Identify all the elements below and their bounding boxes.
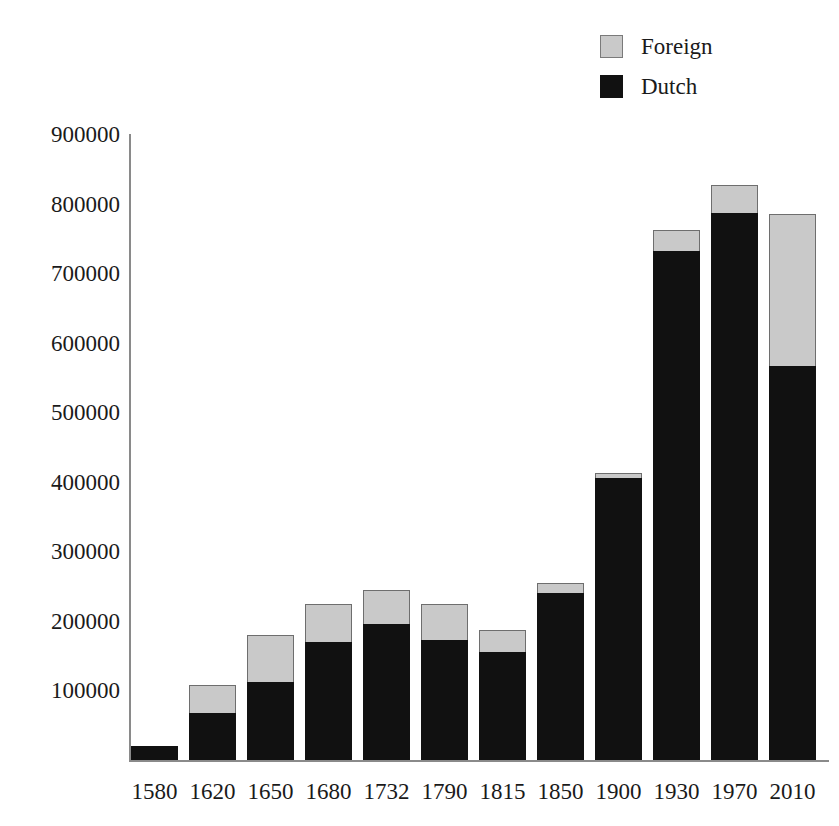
bar-segment-dutch[interactable] xyxy=(363,624,410,760)
bar-segment-foreign[interactable] xyxy=(305,604,352,642)
x-tick-label: 1850 xyxy=(537,780,584,803)
bar-segment-dutch[interactable] xyxy=(595,478,642,760)
y-tick-label: 500000 xyxy=(0,401,120,424)
bar-segment-dutch[interactable] xyxy=(653,251,700,760)
x-tick-label: 1680 xyxy=(305,780,352,803)
legend-label-foreign: Foreign xyxy=(641,35,713,58)
x-tick-label: 1580 xyxy=(131,780,178,803)
bar-group[interactable] xyxy=(305,134,352,760)
x-axis-tick-labels: 1580162016501680173217901815185019001930… xyxy=(131,780,831,803)
bar-segment-dutch[interactable] xyxy=(421,640,468,760)
y-axis-tick-labels: 1000002000003000004000005000006000007000… xyxy=(0,134,120,762)
x-tick-label: 1970 xyxy=(711,780,758,803)
y-tick-label: 200000 xyxy=(0,609,120,632)
bar-group[interactable] xyxy=(769,134,816,760)
bar-group[interactable] xyxy=(131,134,178,760)
x-tick-label: 1620 xyxy=(189,780,236,803)
bar-segment-foreign[interactable] xyxy=(247,635,294,682)
y-tick-label: 600000 xyxy=(0,331,120,354)
bar-group[interactable] xyxy=(247,134,294,760)
foreign-swatch-icon xyxy=(600,35,623,58)
bar-group[interactable] xyxy=(595,134,642,760)
bar-segment-foreign[interactable] xyxy=(653,230,700,251)
y-tick-label: 400000 xyxy=(0,470,120,493)
bar-segment-foreign[interactable] xyxy=(421,604,468,641)
y-tick-label: 900000 xyxy=(0,123,120,146)
bar-segment-dutch[interactable] xyxy=(537,593,584,760)
bar-group[interactable] xyxy=(537,134,584,760)
bar-series-container xyxy=(131,134,831,760)
bar-segment-dutch[interactable] xyxy=(131,746,178,760)
x-tick-label: 1930 xyxy=(653,780,700,803)
legend-entry-foreign[interactable]: Foreign xyxy=(600,26,830,66)
bar-group[interactable] xyxy=(421,134,468,760)
bar-group[interactable] xyxy=(653,134,700,760)
bar-segment-foreign[interactable] xyxy=(189,685,236,713)
legend-entry-dutch[interactable]: Dutch xyxy=(600,66,830,106)
chart-legend: Foreign Dutch xyxy=(600,26,830,106)
bar-segment-foreign[interactable] xyxy=(479,630,526,652)
bar-group[interactable] xyxy=(363,134,410,760)
bar-segment-foreign[interactable] xyxy=(537,583,584,593)
bar-group[interactable] xyxy=(479,134,526,760)
bar-segment-foreign[interactable] xyxy=(769,214,816,366)
x-tick-label: 1790 xyxy=(421,780,468,803)
bar-segment-dutch[interactable] xyxy=(769,366,816,760)
x-tick-label: 1815 xyxy=(479,780,526,803)
bar-segment-foreign[interactable] xyxy=(363,590,410,625)
y-tick-label: 800000 xyxy=(0,192,120,215)
bar-segment-dutch[interactable] xyxy=(711,213,758,760)
x-tick-label: 1732 xyxy=(363,780,410,803)
x-tick-label: 2010 xyxy=(769,780,816,803)
x-axis-line xyxy=(129,760,829,762)
bar-segment-foreign[interactable] xyxy=(711,185,758,213)
bar-group[interactable] xyxy=(189,134,236,760)
bar-segment-dutch[interactable] xyxy=(247,682,294,760)
bar-segment-dutch[interactable] xyxy=(305,642,352,760)
stacked-bar-chart: Foreign Dutch 10000020000030000040000050… xyxy=(0,0,839,826)
dutch-swatch-icon xyxy=(600,75,623,98)
y-tick-label: 100000 xyxy=(0,679,120,702)
bar-group[interactable] xyxy=(711,134,758,760)
x-tick-label: 1900 xyxy=(595,780,642,803)
x-tick-label: 1650 xyxy=(247,780,294,803)
bar-segment-dutch[interactable] xyxy=(189,713,236,760)
legend-label-dutch: Dutch xyxy=(641,75,697,98)
y-tick-label: 300000 xyxy=(0,540,120,563)
bar-segment-dutch[interactable] xyxy=(479,652,526,760)
y-tick-label: 700000 xyxy=(0,262,120,285)
